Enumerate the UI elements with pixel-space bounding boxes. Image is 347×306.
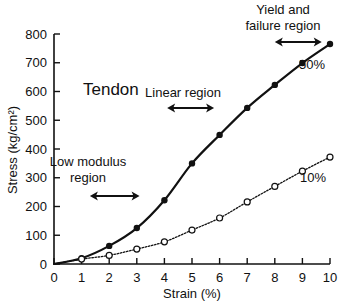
series-label-50: 50% <box>299 57 325 72</box>
data-point-filled <box>244 105 250 111</box>
data-point-filled <box>134 225 140 231</box>
x-tick-label: 1 <box>78 270 85 285</box>
series-label-10: 10% <box>300 170 326 185</box>
annotation-label: region <box>70 170 106 185</box>
y-tick-label: 100 <box>25 228 47 243</box>
y-tick-label: 500 <box>25 113 47 128</box>
x-tick-label: 3 <box>133 270 140 285</box>
data-point-filled <box>189 160 195 166</box>
x-tick-label: 7 <box>244 270 251 285</box>
data-point-open <box>189 227 195 233</box>
x-tick-label: 10 <box>323 270 337 285</box>
annotation-label: failure region <box>245 18 320 33</box>
x-tick-label: 5 <box>188 270 195 285</box>
chart-title: Tendon <box>83 80 139 99</box>
annotation-label: Yield and <box>256 2 310 17</box>
data-point-open <box>106 252 112 258</box>
data-point-open <box>217 215 223 221</box>
stress-strain-chart: 0100200300400500600700800012345678910 Lo… <box>0 0 347 306</box>
y-tick-label: 400 <box>25 142 47 157</box>
data-point-filled <box>161 197 167 203</box>
y-tick-label: 0 <box>40 257 47 272</box>
data-point-open <box>161 239 167 245</box>
annotation-label: Linear region <box>145 85 221 100</box>
x-tick-label: 6 <box>216 270 223 285</box>
data-point-open <box>244 199 250 205</box>
y-tick-label: 800 <box>25 27 47 42</box>
x-tick-label: 2 <box>106 270 113 285</box>
x-tick-label: 4 <box>161 270 168 285</box>
x-tick-label: 0 <box>50 270 57 285</box>
x-tick-label: 9 <box>299 270 306 285</box>
annotation-label: Low modulus <box>50 154 127 169</box>
y-tick-label: 300 <box>25 170 47 185</box>
x-axis-label: Strain (%) <box>163 286 221 301</box>
data-series <box>54 41 333 264</box>
x-tick-label: 8 <box>271 270 278 285</box>
data-point-filled <box>216 132 222 138</box>
y-tick-label: 600 <box>25 84 47 99</box>
data-point-filled <box>106 243 112 249</box>
data-point-open <box>327 154 333 160</box>
y-tick-label: 200 <box>25 199 47 214</box>
y-tick-label: 700 <box>25 55 47 70</box>
data-point-filled <box>272 82 278 88</box>
data-point-open <box>134 246 140 252</box>
y-axis-label: Stress (kg/cm²) <box>5 106 20 194</box>
data-point-open <box>272 183 278 189</box>
data-point-open <box>79 256 85 262</box>
data-point-filled <box>327 41 333 47</box>
